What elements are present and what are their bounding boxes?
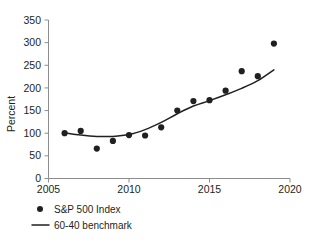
data-point: [62, 130, 68, 136]
data-point: [255, 73, 261, 79]
data-point: [223, 88, 229, 94]
legend-marker-dot-icon: [37, 206, 43, 212]
y-axis-title: Percent: [5, 96, 17, 132]
y-tick-label: 150: [23, 104, 41, 116]
data-point: [126, 132, 132, 138]
chart-svg: 050100150200250300350 2005201020152020 P…: [0, 0, 309, 242]
data-point: [78, 128, 84, 134]
data-point: [110, 138, 116, 144]
chart-figure: 050100150200250300350 2005201020152020 P…: [0, 0, 309, 242]
data-point: [174, 107, 180, 113]
data-point: [206, 97, 212, 103]
y-tick-label: 250: [23, 59, 41, 71]
chart-background: [0, 0, 309, 242]
y-tick-label: 50: [29, 149, 41, 161]
y-tick-label: 350: [23, 14, 41, 26]
x-tick-label: 2015: [198, 183, 222, 195]
legend-label-benchmark: 60-40 benchmark: [54, 220, 133, 231]
data-point: [239, 68, 245, 74]
data-point: [190, 98, 196, 104]
x-tick-label: 2010: [117, 183, 141, 195]
x-tick-label: 2020: [278, 183, 302, 195]
legend-label-sp500: S&P 500 Index: [54, 204, 121, 215]
data-point: [271, 40, 277, 46]
y-tick-label: 300: [23, 36, 41, 48]
data-point: [142, 132, 148, 138]
y-tick-label: 100: [23, 127, 41, 139]
x-tick-label: 2005: [37, 183, 61, 195]
data-point: [158, 124, 164, 130]
data-point: [94, 146, 100, 152]
y-tick-label: 200: [23, 82, 41, 94]
